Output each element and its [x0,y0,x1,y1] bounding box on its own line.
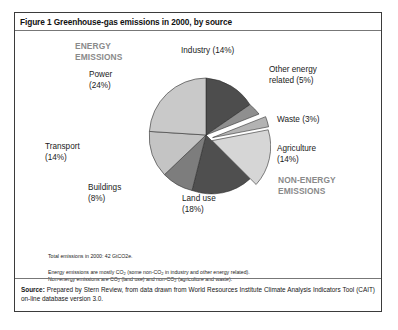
slice-label-buildings-value: (8%) [88,194,121,205]
slice-label-agriculture-name: Agriculture [277,144,316,155]
slice-label-power-name: Power [89,70,112,81]
slice-label-waste-text: Waste (3%) [277,115,319,126]
slice-label-industry: Industry (14%) [181,46,234,57]
slice-label-buildings-name: Buildings [88,183,121,194]
footnote-energy-sub1: 2 [124,271,126,276]
group-label-energy-line1: ENERGY [75,41,122,52]
figure-panel: Figure 1 Greenhouse-gas emissions in 200… [14,12,382,312]
slice-label-landuse-name: Land use [182,194,216,205]
footnote-energy-part3: in industry and other energy related). [163,269,249,275]
footnote-total-emissions: Total emissions in 2000: 42 GtCO2e. [48,253,368,261]
footnote-energy-part2: (some non-CO [126,269,161,275]
group-label-nonenergy-emissions: NON-ENERGY EMISSIONS [278,175,336,196]
slice-label-transport: Transport (14%) [45,142,80,163]
group-label-energy-line2: EMISSIONS [75,52,122,63]
group-label-nonenergy-line2: EMISSIONS [278,186,336,197]
slice-label-other-energy-line1: Other energy [269,65,317,76]
slice-label-industry-text: Industry (14%) [181,46,234,57]
source-text: Prepared by Stern Review, from data draw… [21,286,375,303]
footnote-nonenergy-sub1: 2 [118,278,120,283]
slice-label-transport-value: (14%) [45,153,80,164]
slice-label-power-value: (24%) [89,81,112,92]
slice-label-other-energy: Other energy related (5%) [269,65,317,86]
slice-label-waste: Waste (3%) [277,115,319,126]
slice-label-power: Power (24%) [89,70,112,91]
pie-chart [146,73,271,198]
footnote-energy-emissions: Energy emissions are mostly CO2 (some no… [48,269,368,277]
source-label: Source: [21,286,45,293]
slice-label-landuse: Land use (18%) [182,194,216,215]
footnotes: Total emissions in 2000: 42 GtCO2e. Ener… [48,253,368,284]
slice-label-transport-name: Transport [45,142,80,153]
slice-label-agriculture-value: (14%) [277,155,316,166]
figure-title: Figure 1 Greenhouse-gas emissions in 200… [20,17,232,27]
group-label-energy-emissions: ENERGY EMISSIONS [75,41,122,62]
source-divider [15,278,381,279]
slice-label-agriculture: Agriculture (14%) [277,144,316,165]
group-label-nonenergy-line1: NON-ENERGY [278,175,336,186]
slice-label-buildings: Buildings (8%) [88,183,121,204]
chart-area: ENERGY EMISSIONS Power (24%) Industry (1… [15,31,381,246]
slice-label-landuse-value: (18%) [182,205,216,216]
footnote-energy-part1: Energy emissions are mostly CO [48,269,124,275]
source-block: Source: Prepared by Stern Review, from d… [21,285,375,304]
slice-label-other-energy-line2: related (5%) [269,76,317,87]
pie-slice-power [149,78,206,135]
